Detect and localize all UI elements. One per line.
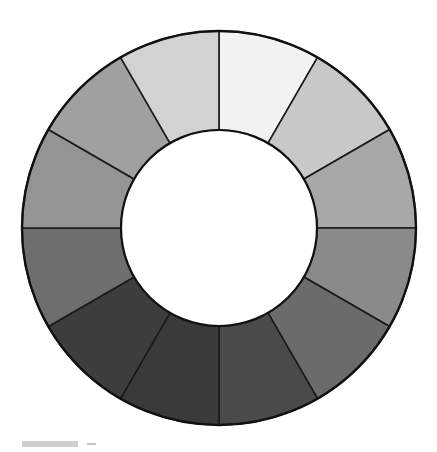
grayscale-value-wheel bbox=[0, 0, 437, 452]
figure-canvas bbox=[0, 0, 437, 452]
caption-strip bbox=[22, 441, 105, 447]
scale-tick-icon bbox=[87, 443, 96, 445]
scale-bar-icon bbox=[22, 441, 78, 447]
wheel-center-hub bbox=[121, 130, 317, 326]
